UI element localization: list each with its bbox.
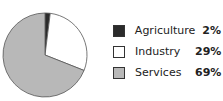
legend-label: Services xyxy=(135,66,195,79)
legend-label: Agriculture xyxy=(135,24,196,37)
legend-value: 29% xyxy=(195,45,221,58)
legend-item-industry: Industry 29% xyxy=(113,41,221,62)
legend-swatch-services xyxy=(113,67,125,79)
legend: Agriculture 2% Industry 29% Services 69% xyxy=(113,20,221,83)
legend-item-agriculture: Agriculture 2% xyxy=(113,20,221,41)
legend-value: 69% xyxy=(195,66,221,79)
legend-swatch-agriculture xyxy=(113,25,125,37)
legend-swatch-industry xyxy=(113,46,125,58)
legend-value: 2% xyxy=(195,24,221,37)
pie-chart xyxy=(0,0,110,101)
legend-label: Industry xyxy=(135,45,195,58)
legend-item-services: Services 69% xyxy=(113,62,221,83)
